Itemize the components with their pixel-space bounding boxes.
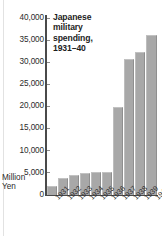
bar-series (47, 15, 158, 195)
y-axis-tick-label: 10,000 (0, 147, 44, 155)
y-axis-unit-line-1: Million (2, 173, 44, 183)
y-axis-tick-label: 15,000 (0, 124, 44, 132)
bar-1939 (135, 52, 145, 195)
y-axis-tick-label: 20,000 (0, 102, 44, 110)
bar-1940 (146, 35, 156, 195)
bar-1937 (113, 107, 123, 195)
y-axis-tick-label: 25,000 (0, 80, 44, 88)
bar-1938 (124, 59, 134, 195)
y-axis-tick-label: 30,000 (0, 58, 44, 66)
chart-figure: Japanese military spending, 1931–40 5,00… (0, 0, 162, 236)
x-axis-tick-group: 1931193219331934193519361937193819391940 (47, 196, 158, 236)
y-axis-tick-label: 40,000 (0, 14, 44, 22)
y-axis-zero-label: 0 (0, 191, 44, 199)
y-axis-tick-label: 35,000 (0, 36, 44, 44)
